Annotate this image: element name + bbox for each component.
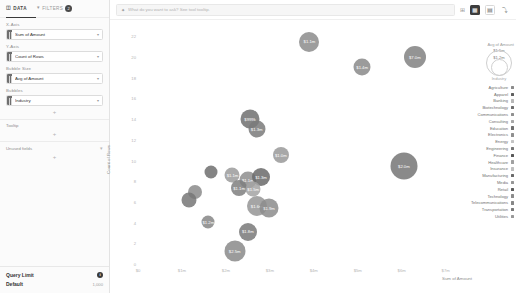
- chevron-down-icon[interactable]: ▾: [97, 32, 99, 37]
- legend-color-swatch: [511, 188, 514, 191]
- legend-item-education[interactable]: Education: [460, 125, 514, 132]
- chevron-down-icon[interactable]: ▾: [100, 145, 103, 151]
- legend-item-biotechnology[interactable]: Biotechnology: [460, 104, 514, 111]
- section-unused-fields-label: Unused fields: [6, 146, 32, 151]
- drag-handle-icon[interactable]: [7, 30, 12, 39]
- field-pill-bubble-size[interactable]: Avg of Amount ▾: [6, 73, 103, 84]
- bubble-engineering[interactable]: [181, 192, 196, 207]
- bubble-finance[interactable]: $7.0m: [404, 46, 426, 68]
- bubble-communications[interactable]: [204, 165, 217, 178]
- legend-item-retail[interactable]: Retail: [460, 186, 514, 193]
- shelf-bubbles: Bubbles Industry ▾: [0, 84, 109, 106]
- layout-button[interactable]: ▤: [485, 5, 495, 15]
- legend-item-technology[interactable]: Technology: [460, 193, 514, 200]
- y-tick-label: 12: [131, 137, 136, 142]
- legend-color-swatch: [511, 147, 514, 150]
- analytics-app: ◫ DATA ▾ FILTERS 2 X-Axis Sum of Amount …: [0, 0, 516, 293]
- legend-item-transportation[interactable]: Transportation: [460, 206, 514, 213]
- query-limit-header: Query Limit i: [6, 272, 103, 278]
- chart-type-button[interactable]: ▦: [470, 5, 480, 15]
- legend-item-label: Insurance: [490, 166, 508, 171]
- field-pill-y-axis-text: Count of Rows: [15, 54, 97, 59]
- legend-item-label: Agriculture: [489, 85, 509, 90]
- bubble-energy[interactable]: $2.0m: [390, 152, 417, 179]
- chevron-down-icon[interactable]: ▾: [97, 76, 99, 81]
- ai-prompt-placeholder: What do you want to ask? See tool toolti…: [128, 7, 210, 12]
- scatter-plot[interactable]: $1.1m$1.4m$7.0m$999k$1.3m$1.0m$2.0m$1.1m…: [138, 26, 472, 264]
- legend-item-agriculture[interactable]: Agriculture: [460, 84, 514, 91]
- add-tooltip-field-button[interactable]: +: [53, 131, 57, 137]
- ai-prompt-input[interactable]: ✦ What do you want to ask? See tool tool…: [116, 4, 455, 16]
- legend-color-swatch: [511, 86, 514, 89]
- query-limit-value-row[interactable]: Default 1,000: [6, 281, 103, 287]
- legend-item-energy[interactable]: Energy: [460, 138, 514, 145]
- field-pill-x-axis[interactable]: Sum of Amount ▾: [6, 29, 103, 40]
- size-legend-title: Avg of Amount: [487, 42, 514, 47]
- legend-item-label: Education: [490, 126, 508, 131]
- main-panel: ✦ What do you want to ask? See tool tool…: [110, 0, 516, 293]
- legend-item-label: Utilities: [495, 214, 508, 219]
- bubble-consulting[interactable]: $1.0m: [273, 147, 289, 163]
- y-axis-label: Count of Rows: [106, 145, 111, 174]
- legend-item-insurance[interactable]: Insurance: [460, 166, 514, 173]
- bubble-banking[interactable]: $1.3m: [248, 121, 265, 138]
- legend-color-swatch: [511, 126, 514, 129]
- drag-handle-icon[interactable]: [7, 52, 12, 61]
- bubble-manufacturing[interactable]: $1.4m: [354, 59, 371, 76]
- x-tick-label: $3m: [266, 268, 274, 273]
- drag-handle-icon[interactable]: [7, 96, 12, 105]
- legend-item-finance[interactable]: Finance: [460, 152, 514, 159]
- field-pill-x-axis-text: Sum of Amount: [15, 32, 97, 37]
- query-limit-count: 1,000: [93, 282, 103, 287]
- field-pill-bubbles[interactable]: Industry ▾: [6, 95, 103, 106]
- bubble-technology[interactable]: $1.1m: [299, 32, 319, 52]
- legend-item-label: Engineering: [486, 146, 508, 151]
- legend-item-consulting[interactable]: Consulting: [460, 118, 514, 125]
- legend-item-telecommunications[interactable]: Telecommunications: [460, 200, 514, 207]
- bubble-retail[interactable]: $1.9m: [259, 199, 278, 218]
- sidebar-tab-data[interactable]: ◫ DATA: [6, 6, 27, 11]
- chevron-down-icon[interactable]: ▾: [97, 98, 99, 103]
- settings-icon[interactable]: ⊞: [460, 7, 465, 13]
- legend-color-swatch: [511, 160, 514, 163]
- legend-item-utilities[interactable]: Utilities: [460, 213, 514, 220]
- x-axis-label: Sum of Amount: [442, 276, 472, 281]
- query-limit-panel: Query Limit i Default 1,000: [0, 266, 109, 293]
- drag-handle-icon[interactable]: [7, 74, 12, 83]
- legend-color-swatch: [511, 201, 514, 204]
- legend-item-label: Apparel: [494, 92, 508, 97]
- size-legend-caption: Industry: [492, 76, 507, 81]
- legend-item-manufacturing[interactable]: Manufacturing: [460, 172, 514, 179]
- legend-item-label: Electronics: [488, 132, 508, 137]
- more-button[interactable]: ⤵: [500, 5, 510, 15]
- top-toolbar: ✦ What do you want to ask? See tool tool…: [110, 0, 516, 20]
- add-unused-field-button[interactable]: +: [53, 154, 57, 160]
- legend-item-label: Media: [497, 180, 508, 185]
- funnel-icon: ▾: [37, 6, 40, 11]
- bubble-transportation[interactable]: $1.8m: [239, 223, 257, 241]
- legend-item-engineering[interactable]: Engineering: [460, 145, 514, 152]
- legend-item-healthcare[interactable]: Healthcare: [460, 159, 514, 166]
- chevron-down-icon[interactable]: ▾: [97, 54, 99, 59]
- add-field-button[interactable]: +: [53, 109, 57, 115]
- legend-item-label: Transportation: [482, 207, 508, 212]
- legend-item-electronics[interactable]: Electronics: [460, 132, 514, 139]
- legend-item-apparel[interactable]: Apparel: [460, 91, 514, 98]
- field-pill-y-axis[interactable]: Count of Rows ▾: [6, 51, 103, 62]
- legend-item-media[interactable]: Media: [460, 179, 514, 186]
- y-tick-label: 0: [134, 262, 136, 267]
- bubble-utilities[interactable]: $2.5m: [224, 240, 245, 261]
- y-tick-label: 10: [131, 158, 136, 163]
- chart-canvas[interactable]: 0246810121416182022 Count of Rows $1.1m$…: [110, 20, 516, 293]
- sidebar-tab-filters[interactable]: ▾ FILTERS 2: [37, 5, 72, 12]
- sidebar-tab-data-label: DATA: [13, 6, 26, 11]
- legend-item-banking[interactable]: Banking: [460, 98, 514, 105]
- section-unused-fields[interactable]: Unused fields ▾: [0, 142, 109, 151]
- bubble-telecommunications[interactable]: $1.2m: [202, 215, 215, 228]
- info-icon[interactable]: i: [97, 272, 103, 278]
- legend-color-swatch: [511, 99, 514, 102]
- legend-item-communications[interactable]: Communications: [460, 111, 514, 118]
- bubble-insurance[interactable]: $1.5m: [246, 182, 261, 197]
- x-tick-label: $5m: [354, 268, 362, 273]
- legend-color-swatch: [511, 154, 514, 157]
